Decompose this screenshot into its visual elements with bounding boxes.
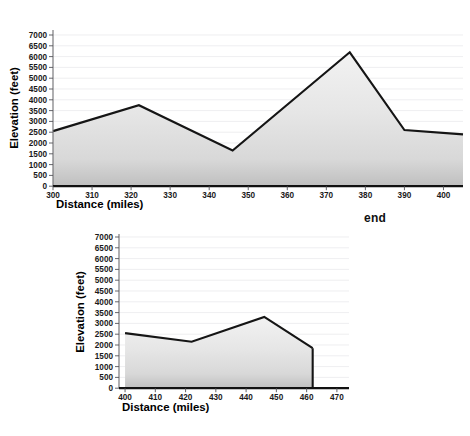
x-tick-label: 450: [270, 393, 284, 402]
y-tick-label: 2000: [95, 341, 114, 350]
y-axis-tick-labels: 0500100015002000250030003500400045005000…: [29, 31, 48, 191]
y-axis-tick-labels: 0500100015002000250030003500400045005000…: [95, 233, 114, 393]
y-tick-label: 6500: [95, 244, 114, 253]
x-tick-label: 430: [209, 393, 223, 402]
elevation-profile-chart-bottom: 0500100015002000250030003500400045005000…: [0, 222, 470, 436]
y-tick-label: 1500: [95, 352, 114, 361]
y-tick-label: 4500: [95, 287, 114, 296]
x-tick-label: 440: [239, 393, 253, 402]
x-tick-label: 470: [330, 393, 344, 402]
y-axis-title: Elevation (feet): [8, 67, 20, 149]
y-tick-label: 7000: [29, 31, 48, 40]
y-tick-label: 3500: [95, 309, 114, 318]
x-axis-title: Distance (miles): [122, 401, 210, 413]
x-tick-label: 370: [319, 191, 333, 200]
y-tick-label: 2000: [29, 139, 48, 148]
y-tick-marks: [115, 237, 119, 388]
x-axis-title: Distance (miles): [56, 198, 144, 210]
y-tick-label: 3000: [95, 319, 114, 328]
y-tick-label: 1500: [29, 150, 48, 159]
y-tick-marks: [49, 35, 53, 186]
x-tick-label: 400: [437, 191, 451, 200]
y-tick-label: 5000: [95, 276, 114, 285]
y-tick-label: 1000: [95, 363, 114, 372]
elevation-profile-chart-top: 0500100015002000250030003500400045005000…: [0, 0, 470, 212]
y-tick-label: 4000: [95, 298, 114, 307]
y-tick-label: 3000: [29, 117, 48, 126]
x-tick-label: 390: [398, 191, 412, 200]
y-tick-label: 4000: [29, 96, 48, 105]
y-tick-label: 7000: [95, 233, 114, 242]
y-tick-label: 500: [33, 171, 47, 180]
x-tick-label: 360: [280, 191, 294, 200]
x-tick-label: 330: [163, 191, 177, 200]
y-tick-label: 0: [108, 384, 113, 393]
y-tick-label: 1000: [29, 161, 48, 170]
y-tick-label: 6500: [29, 42, 48, 51]
y-tick-label: 4500: [29, 85, 48, 94]
y-tick-label: 5500: [29, 63, 48, 72]
chart-bottom-svg: 0500100015002000250030003500400045005000…: [0, 222, 470, 436]
x-tick-label: 380: [359, 191, 373, 200]
y-tick-label: 3500: [29, 107, 48, 116]
x-tick-label: 350: [241, 191, 255, 200]
y-tick-label: 5500: [95, 265, 114, 274]
x-tick-label: 460: [300, 393, 314, 402]
y-tick-label: 500: [99, 373, 113, 382]
y-tick-label: 2500: [29, 128, 48, 137]
chart-top-svg: 0500100015002000250030003500400045005000…: [0, 0, 470, 212]
y-tick-label: 5000: [29, 74, 48, 83]
y-tick-label: 6000: [95, 255, 114, 264]
y-tick-label: 2500: [95, 330, 114, 339]
y-tick-label: 6000: [29, 53, 48, 62]
y-axis-title: Elevation (feet): [74, 271, 86, 353]
y-tick-label: 0: [42, 182, 47, 191]
x-tick-label: 340: [202, 191, 216, 200]
